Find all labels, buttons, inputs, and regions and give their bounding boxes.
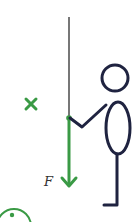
figure-head <box>102 65 128 91</box>
figure-body <box>106 102 130 154</box>
cross-marker-icon <box>26 99 36 109</box>
force-diagram: F <box>0 0 140 222</box>
stick-figure <box>70 65 130 205</box>
info-circle-icon <box>0 209 31 222</box>
figure-leg <box>104 154 117 205</box>
figure-arm <box>70 105 106 127</box>
force-arrow <box>62 115 76 186</box>
force-label: F <box>43 174 54 189</box>
